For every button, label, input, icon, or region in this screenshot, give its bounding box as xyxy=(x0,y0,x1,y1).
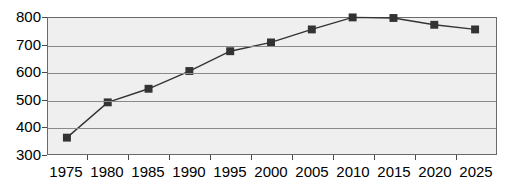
data-point-marker: 1980: 490 xyxy=(104,98,112,106)
y-tick-mark xyxy=(42,17,47,18)
x-tick-mark xyxy=(169,155,170,160)
plot-area: 1975: 3601980: 4901985: 5401990: 6051995… xyxy=(47,17,497,155)
gridline xyxy=(48,101,496,102)
x-tick-mark xyxy=(374,155,375,160)
x-axis: 1975198019851990199520002005201020152020… xyxy=(0,160,509,184)
y-tick-mark xyxy=(42,72,47,73)
data-point-marker: 1975: 360 xyxy=(63,134,71,142)
y-tick-mark xyxy=(42,45,47,46)
line-chart: 300400500600700800 1975: 3601980: 490198… xyxy=(0,0,509,188)
x-tick-mark xyxy=(415,155,416,160)
series-line: 1975: 3601980: 4901985: 5401990: 6051995… xyxy=(48,18,496,154)
y-tick-label: 500 xyxy=(0,92,41,107)
y-tick-label: 600 xyxy=(0,64,41,79)
gridline xyxy=(48,46,496,47)
y-tick-label: 800 xyxy=(0,9,41,24)
y-tick-label: 700 xyxy=(0,37,41,52)
gridline xyxy=(48,128,496,129)
y-tick-label: 400 xyxy=(0,119,41,134)
data-point-marker: 2025: 758 xyxy=(471,25,479,33)
x-tick-mark xyxy=(333,155,334,160)
x-tick-mark xyxy=(251,155,252,160)
x-tick-mark xyxy=(87,155,88,160)
y-tick-mark xyxy=(42,127,47,128)
data-point-marker: 2020: 775 xyxy=(430,21,438,29)
data-point-marker: 2015: 800 xyxy=(389,14,397,22)
y-tick-mark xyxy=(42,155,47,156)
x-tick-mark xyxy=(210,155,211,160)
x-tick-mark xyxy=(456,155,457,160)
series-polyline xyxy=(67,17,475,137)
x-tick-label: 2025 xyxy=(451,163,501,180)
data-point-marker: 1995: 678 xyxy=(226,47,234,55)
data-point-marker: 1985: 540 xyxy=(145,85,153,93)
data-point-marker: 2010: 802 xyxy=(349,13,357,21)
gridline xyxy=(48,73,496,74)
x-tick-mark xyxy=(128,155,129,160)
x-tick-mark xyxy=(292,155,293,160)
data-point-marker: 2005: 758 xyxy=(308,25,316,33)
y-tick-mark xyxy=(42,100,47,101)
